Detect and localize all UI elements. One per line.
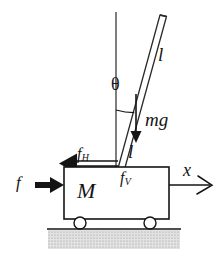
ground-hatch-band — [48, 230, 180, 249]
label-cart-mass: M — [77, 180, 95, 202]
label-pendulum-length-lower: l — [128, 142, 133, 161]
cart-wheel-left — [74, 217, 86, 229]
applied-force-arrow — [35, 177, 64, 193]
cart-wheel-right — [144, 217, 156, 229]
label-position-axis: x — [183, 161, 191, 179]
angle-arc — [116, 110, 134, 113]
label-fv-subscript: V — [124, 176, 130, 187]
label-applied-force: f — [16, 174, 21, 191]
inverted-pendulum-diagram: l θ mg l fH f M fV x — [0, 0, 219, 269]
diagram-canvas — [0, 0, 219, 269]
label-vertical-reaction-force: fV — [120, 170, 131, 187]
label-horizontal-reaction-force: fH — [77, 146, 89, 163]
label-gravity-force: mg — [145, 110, 168, 129]
label-fh-subscript: H — [81, 152, 89, 163]
label-pendulum-length-upper: l — [158, 45, 163, 64]
pendulum-rod — [116, 15, 167, 179]
label-angle-theta: θ — [111, 75, 120, 93]
